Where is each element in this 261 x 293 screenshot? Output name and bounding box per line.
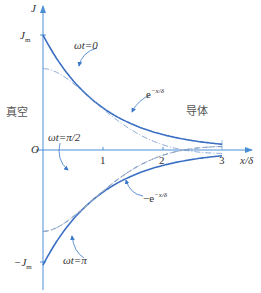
y-axis-label: J [31,3,36,14]
wt-half-pi-label: ωt=π/2 [48,132,80,143]
origin-label: O [31,144,39,155]
wt0-label: ωt=0 [74,40,98,51]
envelope-negative-curve [43,156,222,265]
wt-pi-label: ωt=π [63,255,87,266]
envelope-positive-curve [43,35,222,144]
conductor-label: 导体 [186,106,208,117]
jm-label: Jm [20,30,30,44]
pointer-wt-half-pi [59,143,68,170]
neg-jm-label: −Jm [14,257,32,271]
x-axis-label: x/δ [240,155,253,166]
x-tick-3: 3 [219,155,225,166]
vacuum-label: 真空 [6,107,28,118]
skin-effect-diagram: J Jm −Jm O 1 2 3 x/δ 真空 导体 ωt=0 ωt=π/2 ω… [0,0,261,293]
x-tick-1: 1 [100,155,106,166]
x-tick-2: 2 [159,155,165,166]
pointer-env-neg [126,180,143,196]
env-pos-label: e−x/δ [146,88,164,100]
env-neg-label: −e−x/δ [143,192,167,204]
plot-canvas [0,0,261,293]
